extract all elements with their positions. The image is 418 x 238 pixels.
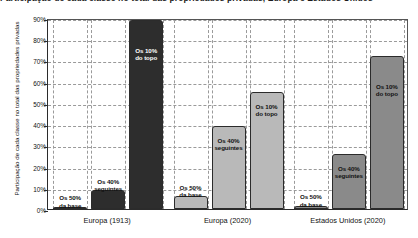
y-tick-label: 30%: [20, 143, 46, 150]
x-gridline: [125, 20, 126, 209]
x-group-label: Estados Unidos (2020): [310, 216, 385, 225]
bar-value-label: Os 40%seguintes: [215, 137, 243, 151]
y-tick-label: 50%: [20, 100, 46, 107]
x-gridline: [208, 20, 209, 209]
x-group-label: Europa (2020): [204, 216, 251, 225]
y-tick-mark: [44, 62, 48, 63]
y-gridline: [48, 20, 407, 21]
y-tick-mark: [44, 84, 48, 85]
bar-label-line2: do topo: [256, 110, 278, 117]
y-gridline: [48, 41, 407, 42]
bar-value-label: Os 50%da base: [59, 194, 81, 208]
bar: Os 10%do topo: [129, 20, 163, 209]
y-tick-label: 10%: [20, 185, 46, 192]
bar-label-line1: Os 10%: [135, 47, 157, 54]
y-tick-mark: [44, 190, 48, 191]
x-gridline: [404, 20, 405, 209]
bar-label-line1: Os 10%: [256, 103, 278, 110]
x-gridline: [294, 20, 295, 209]
bar-value-label: Os 40%seguintes: [335, 165, 363, 179]
y-tick-label: 70%: [20, 58, 46, 65]
x-gridline: [366, 20, 367, 209]
bar-label-line2: da base: [179, 191, 201, 198]
bar-label-line1: Os 40%: [94, 178, 122, 185]
x-gridline: [174, 20, 175, 209]
bar-label-line1: Os 10%: [376, 83, 398, 90]
x-gridline: [91, 20, 92, 209]
y-gridline: [48, 84, 407, 85]
chart-title: Participação de cada classe no total das…: [0, 0, 418, 5]
bar-chart: Participação de cada classe no total das…: [0, 0, 418, 238]
bar: Os 50%da base: [174, 196, 208, 209]
bar-label-line2: do topo: [135, 54, 157, 61]
bar-label-line1: Os 50%: [300, 193, 322, 200]
y-tick-label: 80%: [20, 37, 46, 44]
y-tick-mark: [44, 126, 48, 127]
y-tick-label: 60%: [20, 79, 46, 86]
y-tick-mark: [44, 41, 48, 42]
bar-value-label: Os 10%do topo: [135, 47, 157, 61]
y-tick-mark: [44, 20, 48, 21]
x-gridline: [163, 20, 164, 209]
bar: Os 10%do topo: [370, 56, 404, 209]
bar-label-line2: seguintes: [215, 144, 243, 151]
x-gridline: [87, 20, 88, 209]
bar-label-line2: seguintes: [335, 172, 363, 179]
bar-label-line1: Os 40%: [215, 137, 243, 144]
x-gridline: [53, 20, 54, 209]
y-tick-label: 90%: [20, 16, 46, 23]
y-tick-label: 0%: [20, 207, 46, 214]
bar: Os 50%da base: [294, 206, 328, 209]
x-gridline: [246, 20, 247, 209]
bar-label-line2: seguintes: [94, 185, 122, 192]
bar: Os 40%seguintes: [332, 154, 366, 209]
x-gridline: [284, 20, 285, 209]
bar: Os 50%da base: [53, 207, 87, 209]
x-gridline: [328, 20, 329, 209]
bar-label-line1: Os 50%: [59, 194, 81, 201]
bar-value-label: Os 10%do topo: [256, 103, 278, 117]
bar-label-line2: da base: [59, 202, 81, 209]
y-gridline: [48, 105, 407, 106]
bar: Os 40%seguintes: [212, 126, 246, 209]
bar-label-line2: da base: [300, 201, 322, 208]
y-tick-label: 40%: [20, 122, 46, 129]
bar: Os 10%do topo: [250, 92, 284, 209]
y-tick-mark: [44, 211, 48, 212]
y-tick-label: 20%: [20, 164, 46, 171]
bar-label-line1: Os 40%: [335, 165, 363, 172]
bar-label-line1: Os 50%: [179, 184, 201, 191]
bar-value-label: Os 50%da base: [300, 193, 322, 207]
bar: Os 40%seguintes: [91, 190, 125, 209]
y-tick-mark: [44, 147, 48, 148]
y-gridline: [48, 62, 407, 63]
y-tick-mark: [44, 169, 48, 170]
x-group-label: Europa (1913): [84, 216, 131, 225]
y-tick-mark: [44, 105, 48, 106]
bar-value-label: Os 40%seguintes: [94, 178, 122, 192]
bar-value-label: Os 10%do topo: [376, 83, 398, 97]
bar-label-line2: do topo: [376, 90, 398, 97]
plot-area: Os 50%da baseOs 40%seguintesOs 10%do top…: [47, 19, 408, 210]
y-axis-tick-labels: 0%10%20%30%40%50%60%70%80%90%: [14, 0, 46, 238]
bar-value-label: Os 50%da base: [179, 184, 201, 198]
